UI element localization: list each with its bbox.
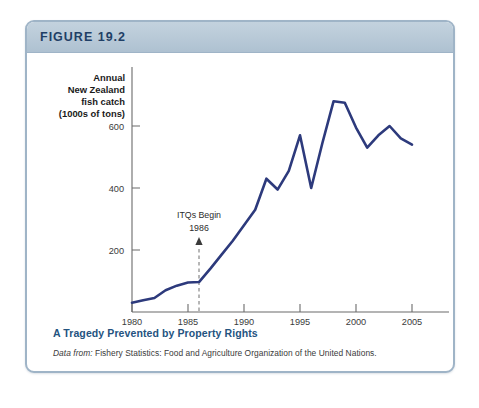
x-tick-label-1980: 1980 xyxy=(122,317,142,327)
x-axis-ticks xyxy=(132,304,412,312)
x-tick-label-2000: 2000 xyxy=(346,317,366,327)
caption-title: A Tragedy Prevented by Property Rights xyxy=(53,327,455,339)
x-tick-label-1985: 1985 xyxy=(178,317,198,327)
x-tick-label-1995: 1995 xyxy=(290,317,310,327)
y-tick-label-400: 400 xyxy=(109,184,124,194)
x-tick-label-1990: 1990 xyxy=(234,317,254,327)
x-tick-label-2005: 2005 xyxy=(402,317,422,327)
fish-catch-series-line xyxy=(132,101,412,303)
y-tick-label-200: 200 xyxy=(109,246,124,256)
itq-annotation: ITQs Begin 1986 xyxy=(177,210,221,312)
caption-source-text: Fishery Statistics: Food and Agriculture… xyxy=(95,348,377,358)
chart-plot-area: Annual New Zealand fish catch (1000s of … xyxy=(27,53,455,333)
y-axis-label-line-3: fish catch xyxy=(81,96,125,107)
y-axis-label-line-4: (1000s of tons) xyxy=(59,108,125,119)
caption-source-lead: Data from: xyxy=(53,348,93,358)
figure-header: FIGURE 19.2 xyxy=(27,22,453,53)
itq-annotation-line-1: ITQs Begin xyxy=(177,210,221,220)
y-tick-label-600: 600 xyxy=(109,122,124,132)
y-axis-ticks xyxy=(132,126,140,250)
y-axis-label-line-1: Annual xyxy=(93,72,125,83)
itq-annotation-line-2: 1986 xyxy=(189,223,209,233)
itq-arrow-icon xyxy=(195,237,202,245)
fish-catch-line-chart: Annual New Zealand fish catch (1000s of … xyxy=(27,53,455,333)
figure-caption-block: A Tragedy Prevented by Property Rights D… xyxy=(27,327,455,358)
caption-source: Data from: Fishery Statistics: Food and … xyxy=(53,348,455,358)
figure-card: FIGURE 19.2 Annual New Zealand fish catc… xyxy=(25,20,455,373)
figure-label: FIGURE 19.2 xyxy=(40,30,126,44)
y-axis-label-line-2: New Zealand xyxy=(68,84,126,95)
